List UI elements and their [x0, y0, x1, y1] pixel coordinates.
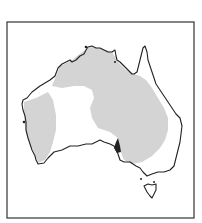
- island: [153, 181, 155, 183]
- island: [140, 178, 142, 180]
- island: [114, 61, 116, 63]
- australia-map: [0, 0, 202, 223]
- island: [85, 46, 88, 49]
- island: [23, 121, 26, 124]
